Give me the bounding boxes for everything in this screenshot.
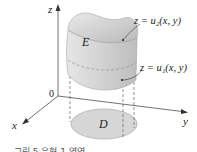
lower-surface-equation: z = u₁(x, y)	[140, 63, 187, 74]
upper-surface-equation: z = u₂(x, y)	[134, 16, 181, 27]
solid-region-e	[67, 13, 138, 90]
figure-caption: 그림 5 유형 1 영역	[14, 146, 85, 152]
z-axis	[56, 4, 61, 96]
y-axis-label: y	[183, 116, 188, 127]
domain-label-d: D	[99, 118, 108, 130]
solid-label-e: E	[82, 36, 89, 48]
x-axis-label: x	[12, 120, 17, 131]
origin-label: 0	[49, 89, 54, 99]
x-axis	[22, 96, 58, 125]
z-axis-label: z	[48, 4, 52, 15]
